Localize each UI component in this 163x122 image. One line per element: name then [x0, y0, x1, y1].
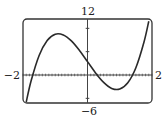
ymax-label: 12	[81, 5, 95, 18]
ymin-label: −6	[81, 105, 97, 118]
cubic-graph: 12 −6 −2 2	[0, 0, 163, 122]
xmax-label: 2	[155, 69, 162, 82]
xmin-label: −2	[4, 69, 20, 82]
